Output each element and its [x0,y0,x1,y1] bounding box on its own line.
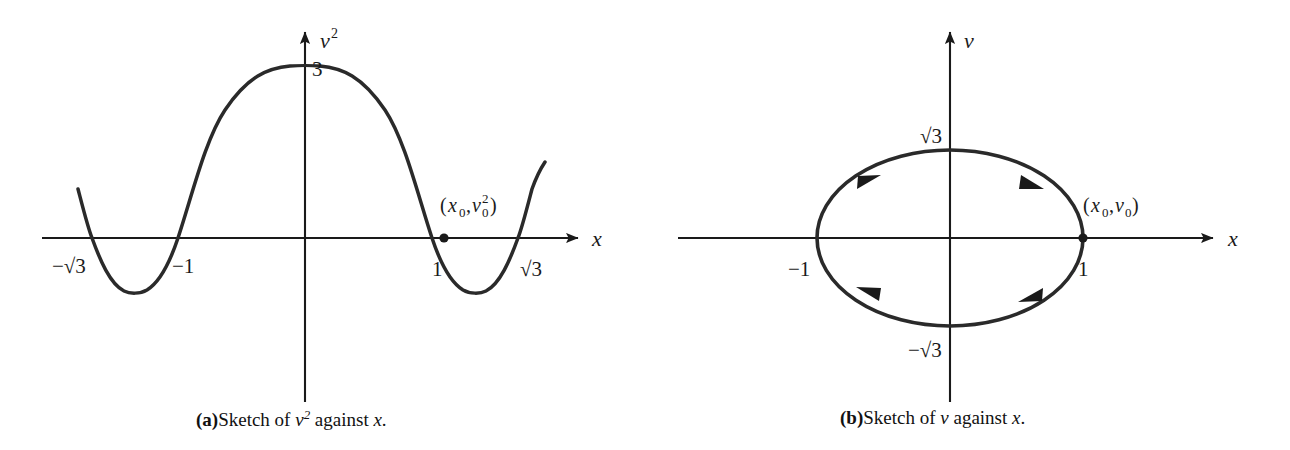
figure-svg: v 2 x 3 −√3 −1 1 √3 ( x 0 , v 0 2 ) [0,0,1290,450]
panel-a-point-label: ( x 0 , v 0 2 ) [440,191,497,220]
caption-b-tag: (b) [840,407,863,428]
panel-b-point-label: ( x 0 , v 0 ) [1083,194,1139,220]
panel-b-xtick-neg-1: −1 [788,257,810,281]
panel-a-curve [78,66,545,294]
svg-text:v: v [472,194,481,216]
caption-panel-a: (a)Sketch of v2 against x. [196,407,387,431]
panel-b-yaxis-label: v [964,28,974,53]
svg-text:,: , [1109,194,1114,216]
panel-a-plot [42,32,578,402]
svg-text:): ) [1132,194,1139,217]
svg-text:0: 0 [1102,205,1109,220]
panel-a-ytick-3: 3 [312,57,323,81]
panel-a-xtick-neg-sqrt3: −√3 [52,254,86,278]
caption-b-post: against x. [949,407,1026,428]
caption-b-math: v [940,407,948,428]
direction-arrow-upper-right [1019,175,1044,189]
caption-panel-b: (b)Sketch of v against x. [840,407,1025,429]
panel-a-xaxis-label: x [591,226,602,251]
panel-b-ytick-neg-sqrt3: −√3 [908,338,942,362]
caption-a-math: v [295,409,303,430]
panel-a-xtick-1: 1 [432,257,443,281]
svg-text:0: 0 [482,205,489,220]
panel-a-yaxis-label-exponent: 2 [331,26,338,41]
direction-arrow-upper-left [857,175,881,189]
panel-a-yaxis-label-v: v [320,28,330,53]
svg-text:x: x [1090,194,1100,216]
svg-text:v: v [1115,194,1124,216]
figure-container: v 2 x 3 −√3 −1 1 √3 ( x 0 , v 0 2 ) [0,0,1290,450]
direction-arrow-lower-left [856,287,881,301]
panel-a-xtick-neg-1: −1 [172,254,194,278]
panel-b-xaxis-label: x [1227,226,1238,251]
panel-b-ytick-sqrt3: √3 [920,124,942,148]
svg-text:,: , [466,194,471,216]
svg-text:): ) [490,194,497,217]
caption-b-pre: Sketch of [863,407,940,428]
svg-text:2: 2 [482,191,489,206]
panel-b-plot [678,32,1213,402]
svg-text:0: 0 [459,205,466,220]
panel-b-xtick-1: 1 [1078,257,1089,281]
svg-text:x: x [447,194,457,216]
caption-a-pre: Sketch of [218,409,295,430]
svg-text:(: ( [1083,194,1090,217]
direction-arrow-lower-right [1018,288,1043,302]
svg-text:0: 0 [1125,205,1132,220]
caption-a-tag: (a) [196,409,218,430]
caption-a-post: against x. [310,409,387,430]
panel-b-point-marker [1078,233,1087,242]
panel-a-xtick-sqrt3: √3 [520,257,542,281]
panel-a-point-marker [439,233,448,242]
svg-text:(: ( [440,194,447,217]
